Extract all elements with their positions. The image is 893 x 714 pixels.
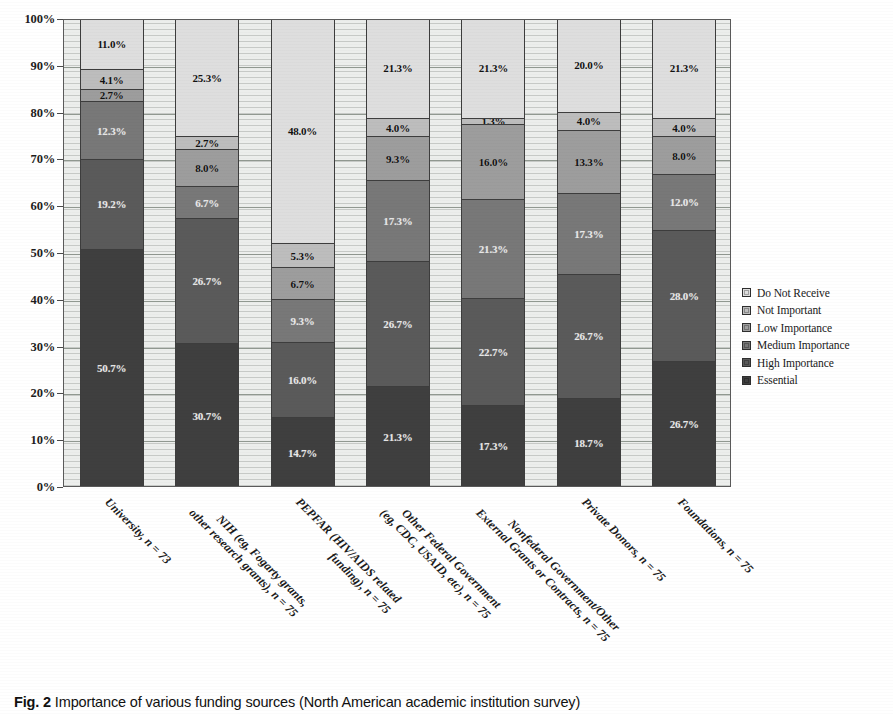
bar-segment-value-label: 48.0% — [288, 125, 317, 137]
bar-segment-value-label: 12.0% — [670, 196, 699, 208]
legend-item[interactable]: High Importance — [742, 356, 892, 369]
bar-segment: 21.3% — [367, 387, 429, 487]
y-axis-tick-label: 90% — [31, 60, 55, 73]
x-axis-label: Private Donors, n = 75 — [579, 495, 669, 585]
bar-segment: 9.3% — [272, 300, 334, 344]
bar-segment-value-label: 21.3% — [383, 431, 412, 443]
bar-segment: 17.3% — [367, 181, 429, 262]
bar-segment: 16.0% — [272, 343, 334, 418]
bar-segment: 6.7% — [272, 268, 334, 299]
bar-segment-value-label: 26.7% — [193, 275, 222, 287]
y-axis-tick-label: 40% — [31, 294, 55, 307]
stacked-bar: 21.3%1.3%16.0%21.3%22.7%17.3% — [461, 19, 525, 486]
legend-swatch-icon — [742, 306, 751, 315]
bar-segment: 2.7% — [176, 137, 238, 150]
y-axis-tick-label: 60% — [31, 200, 55, 213]
legend-item[interactable]: Medium Importance — [742, 339, 892, 352]
y-axis-tick-mark — [57, 487, 63, 488]
bar-segment-value-label: 26.7% — [670, 418, 699, 430]
x-axis-label-line: Nonfederal Government/Other — [505, 516, 623, 634]
figure-caption: Fig. 2 Importance of various funding sou… — [14, 694, 884, 714]
bar-segment: 13.3% — [558, 131, 620, 193]
stacked-bar: 11.0%4.1%2.7%12.3%19.2%50.7% — [80, 19, 144, 486]
bar-segment-value-label: 26.7% — [383, 318, 412, 330]
y-axis: 0%10%20%30%40%50%60%70%80%90%100% — [0, 19, 63, 489]
legend-item[interactable]: Not Important — [742, 304, 892, 317]
bar-segment: 9.3% — [367, 137, 429, 181]
legend-item-label: Medium Importance — [757, 339, 850, 351]
bar-segment-value-label: 21.3% — [479, 243, 508, 255]
x-axis-label-line: Foundations, n = 75 — [675, 495, 756, 576]
legend-item-label: Do Not Receive — [757, 287, 830, 299]
caption-text: Importance of various funding sources (N… — [55, 694, 580, 710]
x-axis-label: University, n = 73 — [101, 495, 174, 568]
y-axis-tick-label: 50% — [31, 247, 55, 260]
bar-segment-value-label: 25.3% — [193, 72, 222, 84]
y-axis-tick-label: 70% — [31, 153, 55, 166]
legend-item-label: Essential — [757, 374, 798, 386]
x-axis-label-line: University, n = 73 — [102, 495, 174, 567]
bar-segment: 28.0% — [653, 231, 715, 362]
stacked-bar: 20.0%4.0%13.3%17.3%26.7%18.7% — [557, 19, 621, 486]
bar-segment-value-label: 4.0% — [386, 122, 410, 134]
legend-swatch-icon — [742, 376, 751, 385]
chart-legend: Do Not ReceiveNot ImportantLow Importanc… — [742, 286, 892, 391]
figure-number: Fig. 2 — [14, 694, 51, 710]
bar-segment: 50.7% — [81, 250, 143, 487]
bar-segment: 4.0% — [653, 119, 715, 138]
bar-segment-value-label: 21.3% — [479, 62, 508, 74]
bar-segment-value-label: 21.3% — [383, 62, 412, 74]
x-axis-label-line: External Grants or Contracts, n = 75 — [472, 506, 612, 646]
bar-segment-value-label: 21.3% — [670, 62, 699, 74]
bar-segment: 14.7% — [272, 418, 334, 487]
bar-segment: 21.3% — [462, 200, 524, 300]
y-axis-tick-label: 100% — [25, 13, 55, 26]
bar-segment-value-label: 16.0% — [288, 374, 317, 386]
bar-segment-value-label: 6.7% — [195, 197, 219, 209]
bar-segment: 26.7% — [558, 275, 620, 400]
bar-segment-value-label: 17.3% — [479, 440, 508, 452]
legend-item[interactable]: Low Importance — [742, 321, 892, 334]
x-axis-label: Foundations, n = 75 — [674, 495, 756, 577]
bar-segment-value-label: 9.3% — [291, 315, 315, 327]
bar-segment: 26.7% — [176, 219, 238, 344]
y-axis-tick-label: 30% — [31, 340, 55, 353]
x-axis-label-line: other research grants), n = 75 — [186, 506, 301, 621]
legend-swatch-icon — [742, 288, 751, 297]
bar-segment-value-label: 19.2% — [97, 198, 126, 210]
bar-segment-value-label: 14.7% — [288, 447, 317, 459]
bar-segment-value-label: 30.7% — [193, 410, 222, 422]
bar-segment: 26.7% — [367, 262, 429, 387]
figure-container: 0%10%20%30%40%50%60%70%80%90%100% 11.0%4… — [0, 0, 893, 714]
bar-segment: 12.0% — [653, 175, 715, 231]
legend-swatch-icon — [742, 341, 751, 350]
bar-segment: 8.0% — [653, 137, 715, 174]
bar-segment: 25.3% — [176, 19, 238, 137]
bar-segment-value-label: 17.3% — [383, 215, 412, 227]
bar-segment-value-label: 4.0% — [577, 115, 601, 127]
bar-segment-value-label: 8.0% — [195, 162, 219, 174]
bar-segment: 19.2% — [81, 160, 143, 250]
bar-segment-value-label: 8.0% — [672, 150, 696, 162]
plot-area: 11.0%4.1%2.7%12.3%19.2%50.7%25.3%2.7%8.0… — [63, 19, 731, 487]
bar-segment-value-label: 13.3% — [574, 156, 603, 168]
legend-item[interactable]: Do Not Receive — [742, 286, 892, 299]
bar-segment-value-label: 16.0% — [479, 156, 508, 168]
bar-segment: 17.3% — [558, 194, 620, 275]
bar-segment-value-label: 26.7% — [574, 330, 603, 342]
bar-segment: 5.3% — [272, 244, 334, 269]
legend-item[interactable]: Essential — [742, 374, 892, 387]
bar-segment-value-label: 50.7% — [97, 362, 126, 374]
stacked-bar: 21.3%4.0%9.3%17.3%26.7%21.3% — [366, 19, 430, 486]
bar-segment: 12.3% — [81, 102, 143, 160]
bar-segment: 21.3% — [367, 19, 429, 119]
bar-segment: 4.0% — [367, 119, 429, 138]
bar-segment: 4.1% — [81, 70, 143, 89]
bar-segment: 4.0% — [558, 113, 620, 132]
bar-segment-value-label: 12.3% — [97, 125, 126, 137]
bar-segment-value-label: 6.7% — [291, 278, 315, 290]
legend-swatch-icon — [742, 323, 751, 332]
legend-item-label: Not Important — [757, 304, 821, 316]
bar-segment-value-label: 5.3% — [291, 250, 315, 262]
bar-segment: 20.0% — [558, 19, 620, 113]
